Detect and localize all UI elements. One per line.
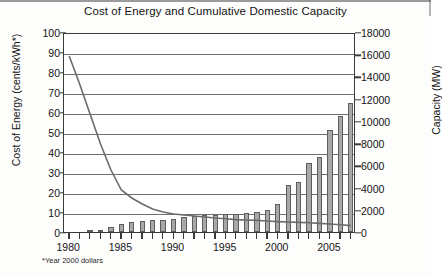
x-axis-tick	[246, 233, 247, 239]
plot-area	[63, 33, 355, 233]
y-axis-right-label: 4000	[361, 183, 384, 195]
y-axis-left-title: Cost of Energy (cents/kWh*)	[10, 0, 22, 200]
y-axis-right-label: 2000	[361, 205, 384, 217]
x-axis-label: 1985	[109, 241, 132, 253]
x-axis-tick	[225, 233, 226, 239]
x-axis-tick	[173, 233, 174, 239]
y-axis-right-label: 12000	[361, 94, 390, 106]
x-axis-tick	[100, 233, 101, 239]
x-axis-label: 2000	[265, 241, 288, 253]
y-axis-left-ticks: 0102030405060708090100	[0, 33, 60, 233]
y-axis-left-label: 80	[48, 67, 60, 79]
x-axis-tick	[329, 233, 330, 239]
x-axis-ticks	[63, 233, 355, 240]
x-axis-tick	[204, 233, 205, 239]
y-axis-left-label: 10	[48, 207, 60, 219]
x-axis-tick	[131, 233, 132, 239]
y-axis-right-label: 6000	[361, 160, 384, 172]
y-axis-left-label: 50	[48, 127, 60, 139]
x-axis-label: 1995	[213, 241, 236, 253]
y-axis-left-label: 70	[48, 87, 60, 99]
x-axis-tick	[350, 233, 351, 239]
y-axis-left-label: 20	[48, 187, 60, 199]
y-axis-left-label: 60	[48, 107, 60, 119]
x-axis-tick	[308, 233, 309, 239]
y-axis-right-label: 18000	[361, 27, 390, 39]
x-axis-tick	[193, 233, 194, 239]
chart-title: Cost of Energy and Cumulative Domestic C…	[0, 5, 431, 17]
y-axis-right-label: 10000	[361, 116, 390, 128]
x-axis-tick	[89, 233, 90, 239]
x-axis-tick	[298, 233, 299, 239]
x-axis-tick	[141, 233, 142, 239]
x-axis-tick	[319, 233, 320, 239]
y-axis-left-label: 100	[42, 27, 60, 39]
x-axis-tick	[277, 233, 278, 239]
y-axis-right-label: 16000	[361, 49, 390, 61]
x-axis-tick	[120, 233, 121, 239]
y-axis-right-label: 14000	[361, 71, 390, 83]
x-axis-tick	[287, 233, 288, 239]
chart-footnote: *Year 2000 dollars	[42, 256, 103, 265]
x-axis-label: 2005	[317, 241, 340, 253]
x-axis-tick	[235, 233, 236, 239]
scan-edge-top	[0, 0, 431, 2]
y-axis-right-ticks: 0200040006000800010000120001400016000180…	[361, 33, 423, 233]
y-axis-left-label: 40	[48, 147, 60, 159]
x-axis-tick	[68, 233, 69, 239]
y-axis-right-label: 0	[361, 227, 367, 239]
y-axis-left-label: 30	[48, 167, 60, 179]
x-axis-tick	[339, 233, 340, 239]
x-axis-tick	[79, 233, 80, 239]
x-axis-tick	[162, 233, 163, 239]
x-axis-label: 1980	[57, 241, 80, 253]
x-axis-tick	[152, 233, 153, 239]
x-axis-tick	[110, 233, 111, 239]
x-axis-labels: 198019851990199520002005	[0, 241, 431, 255]
y-axis-right-label: 8000	[361, 138, 384, 150]
y-axis-right-title: Capacity (MW)	[430, 0, 442, 200]
line-series	[64, 34, 354, 232]
x-axis-tick	[214, 233, 215, 239]
cost-of-energy-line	[64, 34, 356, 234]
y-axis-left-label: 90	[48, 47, 60, 59]
x-axis-tick	[266, 233, 267, 239]
x-axis-label: 1990	[161, 241, 184, 253]
x-axis-tick	[183, 233, 184, 239]
x-axis-tick	[256, 233, 257, 239]
